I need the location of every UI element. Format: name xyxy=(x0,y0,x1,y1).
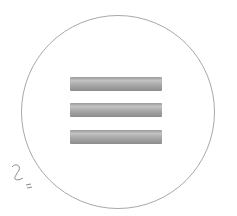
menu-bar-middle xyxy=(70,103,162,117)
pencil-scribble xyxy=(6,160,36,194)
menu-bar-top xyxy=(70,77,162,91)
menu-bar-bottom xyxy=(70,130,162,144)
